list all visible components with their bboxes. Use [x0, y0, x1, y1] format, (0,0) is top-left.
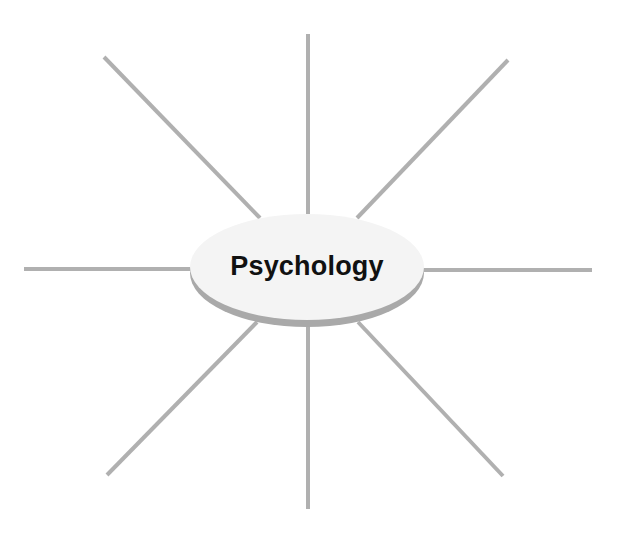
center-node-label: Psychology: [190, 240, 424, 292]
spoke-top-left: [104, 57, 260, 218]
spoke-bottom-right: [358, 322, 503, 476]
spoke-bottom-left: [107, 322, 257, 475]
spoke-top-right: [357, 60, 508, 218]
